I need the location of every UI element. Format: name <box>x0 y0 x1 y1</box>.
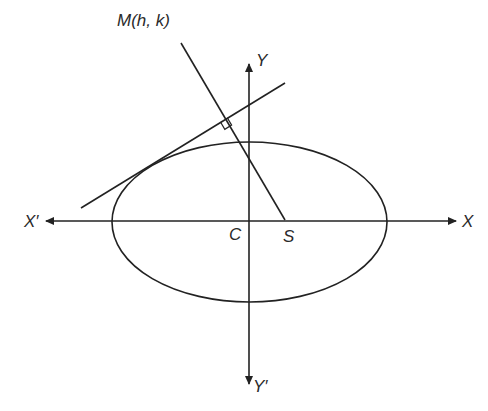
label-y-axis: Y <box>256 52 267 69</box>
perpendicular-line <box>181 43 285 220</box>
label-point-m: M(h, k) <box>117 12 170 29</box>
label-focus: S <box>283 228 294 245</box>
label-y-axis-negative: Y′ <box>253 378 268 395</box>
diagram-canvas <box>0 0 488 411</box>
label-x-axis-negative: X′ <box>24 213 39 230</box>
tangent-line <box>81 83 285 208</box>
ellipse-diagram: M(h, k) Y Y′ X X′ C S <box>0 0 488 411</box>
label-x-axis: X <box>462 213 473 230</box>
label-center: C <box>229 226 241 243</box>
